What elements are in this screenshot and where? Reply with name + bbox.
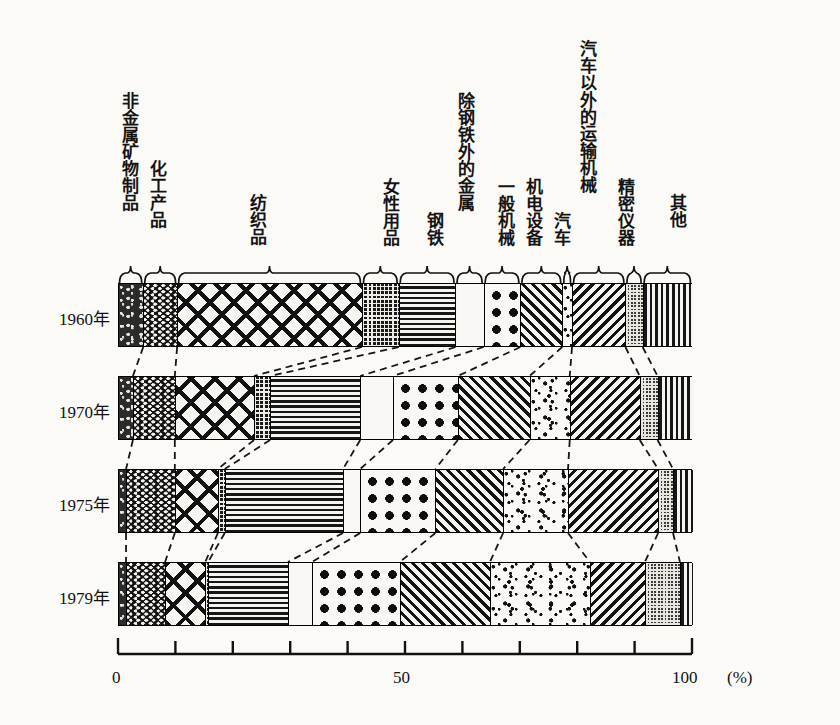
segment-0-7 — [521, 284, 563, 346]
axis-tick-50: 50 — [393, 668, 410, 688]
segment-1-9 — [571, 377, 641, 439]
segment-1-8 — [531, 377, 571, 439]
segment-3-1 — [127, 563, 166, 625]
category-label-2: 纺织品 — [248, 194, 265, 245]
segment-1-5 — [361, 377, 394, 439]
chart-canvas: 非金属矿物制品 化工产品 纺织品 女性用品 钢铁 除钢铁外的金属 一般机械 机电… — [0, 0, 840, 725]
category-label-9: 汽车以外的运输机械 — [578, 40, 595, 193]
category-label-8: 汽车 — [552, 212, 569, 246]
segment-3-2 — [166, 563, 206, 625]
year-label-1975: 1975年 — [44, 491, 110, 516]
segment-0-5 — [457, 284, 485, 346]
segment-3-5 — [289, 563, 313, 625]
segment-2-0 — [119, 470, 127, 532]
segment-3-0 — [119, 563, 127, 625]
axis-unit-label: (%) — [727, 668, 752, 688]
segment-2-8 — [504, 470, 569, 532]
segment-3-6 — [313, 563, 401, 625]
category-braces — [0, 262, 840, 284]
segment-2-4 — [226, 470, 344, 532]
segment-2-9 — [569, 470, 659, 532]
segment-1-10 — [641, 377, 659, 439]
axis-tick-100: 100 — [672, 668, 698, 688]
category-label-5: 除钢铁外的金属 — [456, 92, 473, 211]
segment-1-6 — [394, 377, 459, 439]
segment-0-0 — [119, 284, 144, 346]
category-label-1: 化工产品 — [148, 160, 165, 228]
category-label-11: 其他 — [668, 194, 685, 228]
segment-2-2 — [176, 470, 219, 532]
segment-0-11 — [644, 284, 693, 346]
segment-1-3 — [255, 377, 271, 439]
segment-3-10 — [646, 563, 681, 625]
x-axis — [0, 636, 840, 666]
segment-2-7 — [436, 470, 504, 532]
segment-2-11 — [674, 470, 693, 532]
segment-3-4 — [209, 563, 289, 625]
segment-0-4 — [400, 284, 457, 346]
segment-2-5 — [344, 470, 361, 532]
segment-3-7 — [401, 563, 491, 625]
bar-row-1970 — [118, 376, 692, 440]
segment-3-9 — [591, 563, 646, 625]
segment-1-11 — [659, 377, 693, 439]
bar-row-1979 — [118, 562, 692, 626]
category-label-4: 钢铁 — [425, 212, 442, 246]
segment-0-6 — [485, 284, 522, 346]
segment-1-4 — [271, 377, 361, 439]
segment-2-1 — [127, 470, 176, 532]
category-label-6: 一般机械 — [496, 178, 513, 246]
category-label-10: 精密仪器 — [616, 178, 633, 246]
category-label-7: 机电设备 — [524, 178, 541, 246]
year-label-1979: 1979年 — [44, 584, 110, 609]
segment-1-2 — [176, 377, 255, 439]
segment-2-6 — [361, 470, 436, 532]
segment-2-3 — [219, 470, 226, 532]
bar-row-1960 — [118, 283, 692, 347]
segment-1-7 — [459, 377, 531, 439]
segment-3-8 — [491, 563, 591, 625]
segment-1-0 — [119, 377, 134, 439]
bar-row-1975 — [118, 469, 692, 533]
segment-2-10 — [659, 470, 674, 532]
segment-0-8 — [563, 284, 573, 346]
year-label-1960: 1960年 — [44, 305, 110, 330]
segment-3-11 — [681, 563, 693, 625]
segment-0-10 — [626, 284, 643, 346]
segment-0-2 — [178, 284, 363, 346]
axis-tick-0: 0 — [112, 668, 121, 688]
segment-0-9 — [573, 284, 626, 346]
segment-1-1 — [134, 377, 176, 439]
category-label-0: 非金属矿物制品 — [120, 92, 137, 211]
segment-0-3 — [363, 284, 400, 346]
year-label-1970: 1970年 — [44, 398, 110, 423]
category-label-3: 女性用品 — [381, 178, 398, 246]
segment-0-1 — [144, 284, 178, 346]
